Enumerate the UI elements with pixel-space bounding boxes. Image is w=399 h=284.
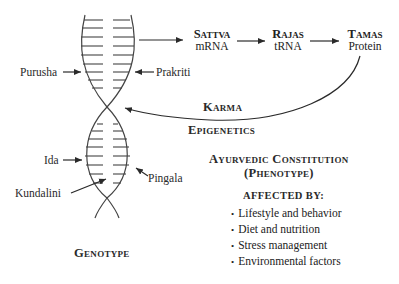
pingala-arrow [136, 168, 148, 176]
phenotype-subtitle: (Phenotype) [244, 167, 314, 179]
rajas-sub: tRNA [266, 40, 310, 52]
factor-list: Lifestyle and behavior Diet and nutritio… [231, 206, 342, 270]
phenotype-title: Ayurvedic Constitution [209, 153, 348, 165]
label-purusha: Purusha [20, 66, 57, 78]
kundalini-arrow [71, 179, 106, 193]
label-genotype: Genotype [74, 247, 130, 259]
node-rajas: Rajas tRNA [266, 28, 310, 52]
sattva-title: Sattva [186, 28, 238, 40]
dna-rungs [81, 20, 134, 183]
tamas-title: Tamas [340, 28, 390, 40]
factor-item: Lifestyle and behavior [231, 206, 342, 222]
label-pingala: Pingala [148, 172, 183, 184]
factor-item: Diet and nutrition [231, 222, 342, 238]
affected-by-heading: Affected by: [243, 190, 324, 202]
label-ida: Ida [44, 154, 59, 166]
arrows [63, 40, 360, 193]
rajas-title: Rajas [266, 28, 310, 40]
node-tamas: Tamas Protein [340, 28, 390, 52]
label-epigenetics: Epigenetics [188, 124, 255, 136]
label-karma: Karma [203, 101, 242, 113]
tamas-sub: Protein [340, 40, 390, 52]
sattva-sub: mRNA [186, 40, 238, 52]
factor-item: Environmental factors [231, 254, 342, 270]
factor-item: Stress management [231, 238, 342, 254]
label-prakriti: Prakriti [156, 66, 191, 78]
label-kundalini: Kundalini [15, 187, 61, 199]
node-sattva: Sattva mRNA [186, 28, 238, 52]
